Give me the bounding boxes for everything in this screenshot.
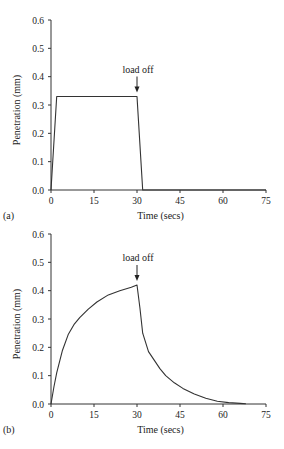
y-tick-label: 0.4 (32, 72, 44, 82)
y-tick-label: 0.4 (32, 286, 44, 296)
y-tick-label: 0.3 (32, 315, 44, 325)
x-tick-label: 75 (261, 196, 271, 206)
x-tick-label: 15 (89, 196, 99, 206)
x-tick-label: 60 (218, 410, 228, 420)
y-tick-label: 0.0 (32, 186, 44, 196)
annotation-text: load off (122, 252, 154, 263)
y-tick-label: 0.6 (32, 16, 44, 26)
x-tick-label: 75 (261, 410, 271, 420)
x-tick-label: 30 (132, 410, 142, 420)
y-tick-label: 0.0 (32, 400, 44, 410)
x-tick-label: 0 (49, 196, 54, 206)
y-tick-label: 0.5 (32, 44, 44, 54)
x-tick-label: 0 (49, 410, 54, 420)
y-tick-label: 0.1 (32, 157, 44, 167)
y-axis-label: Penetration (mm) (11, 289, 23, 359)
y-tick-label: 0.2 (32, 129, 44, 139)
x-tick-label: 30 (132, 196, 142, 206)
x-axis-label: Time (secs) (137, 424, 184, 436)
chart-a-plot: 0.00.10.20.30.40.50.601530456075Time (se… (0, 0, 284, 225)
annotation-text: load off (122, 64, 154, 75)
y-tick-label: 0.1 (32, 371, 44, 381)
data-line (51, 97, 266, 191)
y-tick-label: 0.2 (32, 343, 44, 353)
panel-label: (b) (3, 424, 15, 436)
arrow-down-icon (135, 275, 140, 281)
x-tick-label: 45 (175, 196, 185, 206)
y-axis-label: Penetration (mm) (11, 75, 23, 145)
data-line (51, 285, 246, 404)
y-tick-label: 0.6 (32, 230, 44, 240)
chart-panel-a: 0.00.10.20.30.40.50.601530456075Time (se… (0, 0, 284, 225)
chart-b-plot: 0.00.10.20.30.40.50.601530456075Time (se… (0, 214, 284, 449)
y-tick-label: 0.5 (32, 258, 44, 268)
x-tick-label: 15 (89, 410, 99, 420)
x-tick-label: 45 (175, 410, 185, 420)
y-tick-label: 0.3 (32, 101, 44, 111)
arrow-down-icon (135, 87, 140, 93)
x-tick-label: 60 (218, 196, 228, 206)
chart-panel-b: 0.00.10.20.30.40.50.601530456075Time (se… (0, 214, 284, 449)
